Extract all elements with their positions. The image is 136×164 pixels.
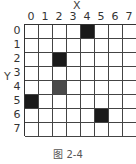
column-label: 6	[108, 11, 122, 23]
grid-cell	[95, 67, 109, 81]
column-label: 2	[52, 11, 66, 23]
grid-cell	[81, 53, 95, 67]
filled-cell	[95, 109, 109, 123]
grid-cell	[67, 39, 81, 53]
filled-cell	[53, 81, 67, 95]
grid-cell	[53, 67, 67, 81]
grid-cell	[25, 67, 39, 81]
grid-cell	[39, 109, 53, 123]
grid-cell	[25, 39, 39, 53]
grid-cell	[39, 67, 53, 81]
grid-cell	[53, 95, 67, 109]
grid-cell	[25, 123, 39, 137]
grid-cell	[25, 25, 39, 39]
grid-cell	[53, 109, 67, 123]
filled-cell	[53, 53, 67, 67]
grid-cell	[109, 95, 123, 109]
row-label: 5	[10, 95, 24, 107]
grid-cell	[81, 123, 95, 137]
row-label: 2	[10, 53, 24, 65]
grid-cell	[109, 39, 123, 53]
grid-cell	[39, 53, 53, 67]
row-label: 3	[10, 67, 24, 79]
grid-cell	[109, 81, 123, 95]
grid-cell	[95, 123, 109, 137]
column-label: 3	[66, 11, 80, 23]
grid-cell	[123, 53, 136, 67]
column-label: 0	[24, 11, 38, 23]
grid-cell	[109, 53, 123, 67]
grid-cell	[39, 25, 53, 39]
row-label: 0	[10, 25, 24, 37]
grid-cell	[95, 95, 109, 109]
grid-cell	[123, 25, 136, 39]
grid-cell	[123, 109, 136, 123]
grid-cell	[81, 67, 95, 81]
grid-cell	[95, 81, 109, 95]
grid-cell	[81, 109, 95, 123]
column-label: 7	[122, 11, 136, 23]
grid-cell	[25, 81, 39, 95]
grid-cell	[81, 95, 95, 109]
pixel-grid	[24, 24, 136, 136]
grid-cell	[67, 123, 81, 137]
grid-cell	[95, 53, 109, 67]
grid-cell	[95, 25, 109, 39]
grid-cell	[67, 53, 81, 67]
grid-cell	[39, 95, 53, 109]
grid-cell	[123, 123, 136, 137]
grid-cell	[53, 25, 67, 39]
grid-cell	[25, 53, 39, 67]
filled-cell	[25, 95, 39, 109]
grid-cell	[123, 81, 136, 95]
filled-cell	[81, 25, 95, 39]
grid-cell	[39, 123, 53, 137]
grid-cell	[109, 123, 123, 137]
grid-cell	[123, 95, 136, 109]
grid-cell	[67, 95, 81, 109]
grid-cell	[39, 81, 53, 95]
grid-cell	[53, 123, 67, 137]
row-label: 1	[10, 39, 24, 51]
column-label: 5	[94, 11, 108, 23]
grid-cell	[109, 25, 123, 39]
grid-cell	[25, 109, 39, 123]
row-label: 6	[10, 109, 24, 121]
row-label: 4	[10, 81, 24, 93]
figure-caption: 图 2-4	[0, 146, 136, 161]
grid-cell	[123, 67, 136, 81]
grid-cell	[39, 39, 53, 53]
grid-cell	[81, 39, 95, 53]
grid-cell	[67, 25, 81, 39]
grid-cell	[109, 67, 123, 81]
grid-cell	[67, 81, 81, 95]
grid-cell	[109, 109, 123, 123]
grid-cell	[123, 39, 136, 53]
grid-cell	[67, 67, 81, 81]
grid-cell	[53, 39, 67, 53]
grid-cell	[95, 39, 109, 53]
grid-cell	[81, 81, 95, 95]
grid-cell	[67, 109, 81, 123]
column-label: 4	[80, 11, 94, 23]
row-label: 7	[10, 123, 24, 135]
column-label: 1	[38, 11, 52, 23]
